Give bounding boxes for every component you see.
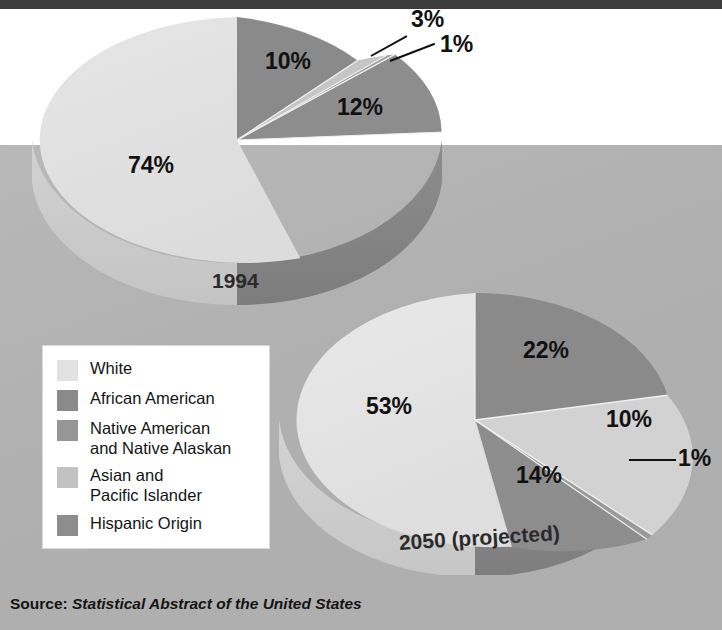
legend-swatch-hispanic [57, 515, 78, 536]
pie-2050-label-hispanic: 14% [516, 464, 562, 487]
legend-swatch-white [57, 360, 78, 381]
pie-1994-label-white: 74% [128, 154, 174, 177]
pie-2050-label-asian: 10% [606, 408, 652, 431]
pie-1994-label-asian: 3% [411, 8, 444, 31]
legend-swatch-native-american [57, 420, 78, 441]
pie-1994-year-label: 1994 [212, 269, 259, 293]
legend-label-hispanic-line1: Hispanic Origin [90, 513, 202, 533]
legend-label-asian: Asian and Pacific Islander [90, 465, 202, 505]
source-note: Source: Statistical Abstract of the Unit… [10, 595, 362, 613]
legend-item-asian: Asian and Pacific Islander [57, 465, 259, 505]
pie-2050-label-white: 53% [366, 395, 412, 418]
legend-item-hispanic: Hispanic Origin [57, 513, 259, 536]
pie-2050-label-african-american: 22% [523, 339, 569, 362]
legend-label-african-american: African American [90, 388, 215, 408]
source-prefix: Source: [10, 595, 68, 612]
legend-label-native-american-line1: Native American [90, 418, 231, 438]
legend-item-white: White [57, 358, 259, 381]
legend-item-african-american: African American [57, 388, 259, 411]
legend-label-native-american-line2: and Native Alaskan [90, 438, 231, 458]
legend-label-asian-line1: Asian and [90, 465, 202, 485]
pie-1994-label-native: 1% [440, 33, 473, 56]
legend-label-white: White [90, 358, 132, 378]
legend: White African American Native American a… [42, 345, 270, 549]
legend-label-asian-line2: Pacific Islander [90, 485, 202, 505]
legend-swatch-african-american [57, 390, 78, 411]
pie-2050-label-native: 1% [678, 447, 711, 470]
pie-2050-leader-native [629, 459, 676, 461]
source-title: Statistical Abstract of the United State… [72, 595, 362, 612]
pie-1994-label-hispanic: 12% [337, 96, 383, 119]
legend-label-native-american: Native American and Native Alaskan [90, 418, 231, 458]
legend-label-hispanic: Hispanic Origin [90, 513, 202, 533]
pie-chart-figure: 74% 10% 3% 1% 12% 1994 [0, 0, 722, 630]
pie-1994-label-african-american: 10% [265, 50, 311, 73]
legend-label-african-american-line1: African American [90, 388, 215, 408]
legend-label-white-line1: White [90, 358, 132, 378]
legend-swatch-asian [57, 467, 78, 488]
legend-item-native-american: Native American and Native Alaskan [57, 418, 259, 458]
